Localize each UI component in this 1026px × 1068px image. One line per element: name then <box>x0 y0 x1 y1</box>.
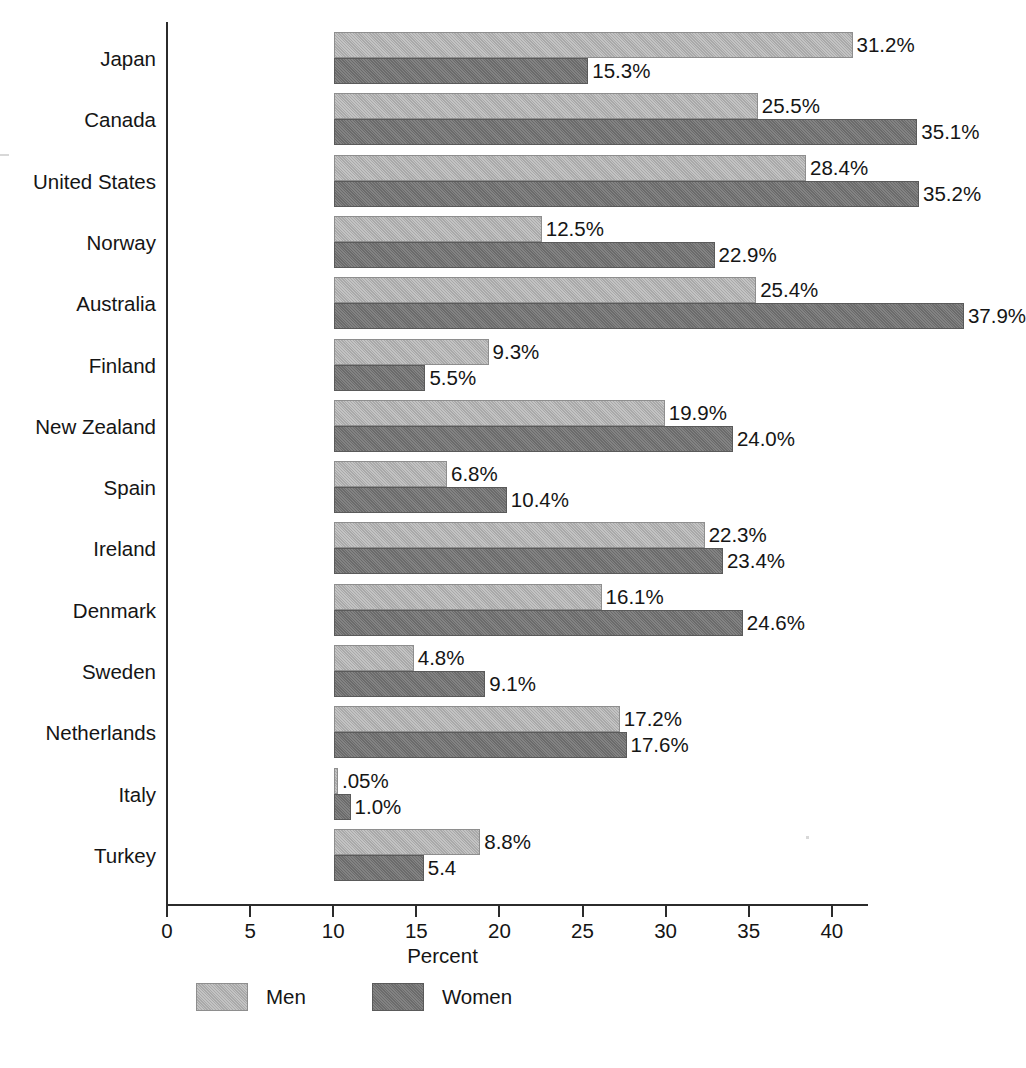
x-axis-tick-label: 35 <box>719 919 779 943</box>
legend-swatch <box>196 983 248 1011</box>
bar-value-label: 15.3% <box>588 58 650 84</box>
category-label: Canada <box>0 93 156 146</box>
bar-women <box>334 610 743 636</box>
legend-item-women: Women <box>372 983 512 1011</box>
chart-category-row: New Zealand19.9%24.0% <box>166 400 885 453</box>
chart-category-row: Netherlands17.2%17.6% <box>166 706 885 759</box>
bar-women <box>334 487 507 513</box>
x-axis-tick-label: 40 <box>802 919 862 943</box>
category-label: Denmark <box>0 584 156 637</box>
category-label: Finland <box>0 339 156 392</box>
bar-value-label: 25.4% <box>756 277 818 303</box>
legend-item-men: Men <box>196 983 306 1011</box>
bar-women <box>334 671 485 697</box>
bar-value-label: 16.1% <box>602 584 664 610</box>
bar-men <box>334 155 806 181</box>
bar-value-label: 22.9% <box>715 242 777 268</box>
bar-value-label: 35.2% <box>919 181 981 207</box>
chart-category-row: Ireland22.3%23.4% <box>166 522 885 575</box>
x-axis-tick-label: 5 <box>220 919 280 943</box>
category-label: Netherlands <box>0 706 156 759</box>
x-axis-tick <box>249 906 251 917</box>
bar-value-label: 17.2% <box>620 706 682 732</box>
x-axis-tick <box>415 906 417 917</box>
bar-men <box>334 32 853 58</box>
chart-category-row: Finland9.3%5.5% <box>166 339 885 392</box>
bar-men <box>334 584 602 610</box>
category-label: Spain <box>0 461 156 514</box>
chart-category-row: Japan31.2%15.3% <box>166 32 885 85</box>
chart-category-row: Sweden4.8%9.1% <box>166 645 885 698</box>
category-label: Japan <box>0 32 156 85</box>
legend-swatch <box>372 983 424 1011</box>
bar-women <box>334 303 964 329</box>
x-axis-tick <box>166 906 168 917</box>
bar-value-label: 24.0% <box>733 426 795 452</box>
chart-legend: MenWomen <box>196 983 512 1011</box>
chart-category-row: Norway12.5%22.9% <box>166 216 885 269</box>
bar-value-label: 1.0% <box>351 794 402 820</box>
bar-value-label: 10.4% <box>507 487 569 513</box>
legend-label: Women <box>442 985 512 1009</box>
bar-women <box>334 242 715 268</box>
x-axis-title: Percent <box>0 944 885 968</box>
bar-value-label: 37.9% <box>964 303 1026 329</box>
bar-value-label: 35.1% <box>917 119 979 145</box>
bar-value-label: 24.6% <box>743 610 805 636</box>
bar-men <box>334 216 542 242</box>
x-axis-tick-label: 30 <box>636 919 696 943</box>
bar-men <box>334 93 758 119</box>
bar-value-label: 19.9% <box>665 400 727 426</box>
x-axis-tick <box>831 906 833 917</box>
bar-men <box>334 522 705 548</box>
bar-men <box>334 400 665 426</box>
category-label: Australia <box>0 277 156 330</box>
bar-value-label: 4.8% <box>414 645 465 671</box>
x-axis-tick <box>498 906 500 917</box>
bar-women <box>334 58 588 84</box>
bar-men <box>334 339 489 365</box>
bar-value-label: 6.8% <box>447 461 498 487</box>
bar-value-label: 5.4 <box>424 855 457 881</box>
bar-men <box>334 645 414 671</box>
bar-value-label: 9.1% <box>485 671 536 697</box>
bar-women <box>334 181 919 207</box>
bar-women <box>334 365 425 391</box>
chart-category-row: Spain6.8%10.4% <box>166 461 885 514</box>
bar-value-label: 31.2% <box>853 32 915 58</box>
x-axis-line <box>166 904 868 906</box>
category-label: United States <box>0 155 156 208</box>
chart-category-row: Turkey8.8%5.4 <box>166 829 885 882</box>
bar-women <box>334 855 424 881</box>
bar-women <box>334 119 917 145</box>
bar-value-label: 17.6% <box>627 732 689 758</box>
bar-men <box>334 277 756 303</box>
chart-category-row: Canada25.5%35.1% <box>166 93 885 146</box>
x-axis-tick <box>582 906 584 917</box>
x-axis-tick-label: 10 <box>303 919 363 943</box>
x-axis-tick-label: 20 <box>469 919 529 943</box>
bar-value-label: 28.4% <box>806 155 868 181</box>
x-axis-tick <box>665 906 667 917</box>
legend-label: Men <box>266 985 306 1009</box>
x-axis-tick <box>332 906 334 917</box>
bar-value-label: 5.5% <box>425 365 476 391</box>
bar-value-label: 25.5% <box>758 93 820 119</box>
bar-value-label: 8.8% <box>480 829 531 855</box>
chart-category-row: Australia25.4%37.9% <box>166 277 885 330</box>
plot-area: Japan31.2%15.3%Canada25.5%35.1%United St… <box>166 22 885 903</box>
bar-men <box>334 829 480 855</box>
bar-value-label: .05% <box>338 768 389 794</box>
bar-women <box>334 548 723 574</box>
bar-women <box>334 732 627 758</box>
x-axis-tick-label: 0 <box>137 919 197 943</box>
x-axis-tick-label: 15 <box>386 919 446 943</box>
category-label: New Zealand <box>0 400 156 453</box>
bar-value-label: 22.3% <box>705 522 767 548</box>
chart-category-row: Italy.05%1.0% <box>166 768 885 821</box>
bar-value-label: 23.4% <box>723 548 785 574</box>
bar-value-label: 12.5% <box>542 216 604 242</box>
chart-category-row: Denmark16.1%24.6% <box>166 584 885 637</box>
bar-men <box>334 706 620 732</box>
